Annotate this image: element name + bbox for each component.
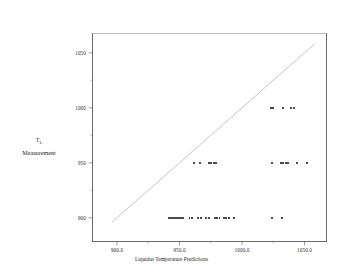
data-point — [282, 107, 284, 109]
data-point — [197, 217, 199, 219]
y-tick-label: 900 — [64, 215, 86, 221]
scatter-chart: 900.0950.01000.01050.090095010001050 TL … — [0, 0, 343, 279]
data-point — [296, 162, 298, 164]
data-point — [271, 217, 273, 219]
x-tick-label: 1000.0 — [222, 247, 262, 253]
y-tick-label: 1050 — [64, 50, 86, 56]
y-axis-title-subscript: L — [40, 140, 43, 145]
data-point — [287, 162, 289, 164]
data-point — [191, 217, 193, 219]
y-axis-title-line2: Measurement — [8, 148, 70, 158]
plot-area — [92, 33, 327, 242]
data-point — [215, 162, 217, 164]
x-tick-label: 950.0 — [160, 247, 200, 253]
data-point — [208, 217, 210, 219]
x-tick-label: 1050.0 — [285, 247, 325, 253]
data-point — [193, 162, 195, 164]
y-axis-title: TL Measurement — [8, 135, 70, 158]
data-point — [281, 217, 283, 219]
data-point — [233, 217, 235, 219]
data-point — [272, 107, 274, 109]
data-point — [182, 217, 184, 219]
data-point — [306, 162, 308, 164]
data-point — [216, 217, 218, 219]
y-tick-label: 1000 — [64, 105, 86, 111]
data-point — [228, 217, 230, 219]
x-tick-label: 900.0 — [97, 247, 137, 253]
data-point — [282, 162, 284, 164]
y-tick-label: 950 — [64, 160, 86, 166]
data-point — [271, 162, 273, 164]
data-point — [219, 217, 221, 219]
data-point — [200, 217, 202, 219]
data-point — [293, 107, 295, 109]
data-point — [199, 162, 201, 164]
x-axis-title: Liquidus Temperature Predictions — [0, 256, 343, 262]
